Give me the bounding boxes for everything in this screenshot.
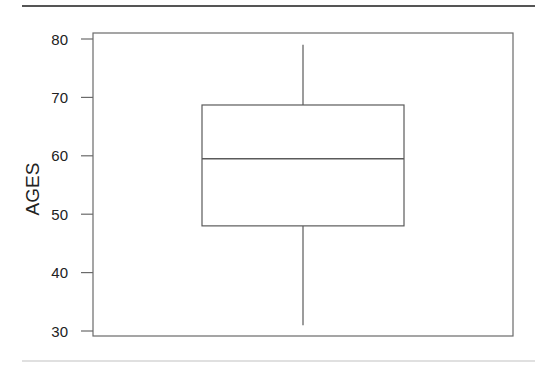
y-tick-label: 70 <box>51 89 68 106</box>
y-tick-label: 80 <box>51 31 68 48</box>
y-tick-label: 40 <box>51 264 68 281</box>
y-tick-label: 60 <box>51 147 68 164</box>
box-plot <box>202 45 404 325</box>
y-axis: 304050607080 <box>51 31 93 340</box>
iqr-box <box>202 105 404 226</box>
chart: 304050607080 AGES <box>0 0 535 366</box>
y-tick-label: 50 <box>51 206 68 223</box>
y-tick-label: 30 <box>51 323 68 340</box>
y-axis-label: AGES <box>22 163 43 216</box>
